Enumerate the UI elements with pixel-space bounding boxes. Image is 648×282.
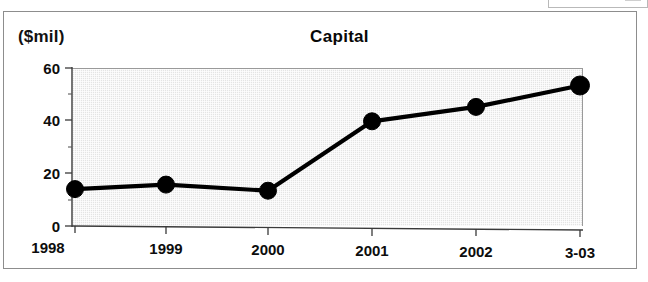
series-marker-2002: [468, 98, 485, 115]
series-marker-3-03: [571, 76, 590, 95]
y-tick-label-60: 60: [43, 60, 60, 77]
series-marker-2000: [260, 182, 277, 199]
x-tick-label-2000: 2000: [251, 241, 284, 258]
x-tick-label-1998: 1998: [31, 239, 64, 256]
y-axis: 60 40 20 0: [43, 60, 72, 235]
x-axis-line: [72, 226, 583, 230]
series-line-capital: [75, 86, 580, 191]
series-markers-capital: [67, 76, 590, 199]
series-marker-1998: [67, 181, 84, 198]
series-marker-1999: [158, 176, 175, 193]
x-tick-label-2001: 2001: [355, 242, 388, 259]
x-tick-label-3-03: 3-03: [565, 244, 595, 261]
y-tick-label-20: 20: [43, 165, 60, 182]
x-tick-label-2002: 2002: [459, 243, 492, 260]
series-marker-2001: [364, 113, 381, 130]
series-capital: [67, 76, 590, 199]
y-tick-label-0: 0: [52, 218, 60, 235]
x-tick-label-1999: 1999: [149, 240, 182, 257]
y-tick-label-40: 40: [43, 112, 60, 129]
x-axis: 1998 1999 2000 2001 2002 3-03: [31, 226, 595, 261]
